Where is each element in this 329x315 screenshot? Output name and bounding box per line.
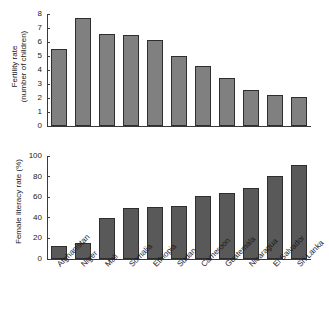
y-tick-label-fertility-1: 1 xyxy=(24,108,42,116)
bar-fertility-guatemala xyxy=(219,78,235,126)
y-tick-label-literacy-0: 0 xyxy=(20,255,42,263)
chart-panel-fertility: Fertility rate (number of children) 0123… xyxy=(0,0,329,142)
y-tick-fertility-1 xyxy=(47,112,50,113)
x-axis-line-fertility xyxy=(47,126,311,127)
y-tick-fertility-5 xyxy=(47,56,50,57)
y-tick-label-literacy-40: 40 xyxy=(20,214,42,222)
y-tick-fertility-7 xyxy=(47,28,50,29)
bar-fertility-afghanistan xyxy=(51,49,67,126)
chart-panel-literacy: Female literacy rate (%) 020406080100 Af… xyxy=(0,142,329,315)
y-tick-fertility-2 xyxy=(47,98,50,99)
y-tick-label-literacy-80: 80 xyxy=(20,173,42,181)
bar-fertility-mali xyxy=(99,34,115,126)
bar-fertility-nicaragua xyxy=(243,90,259,126)
bar-fertility-sudan xyxy=(171,56,187,126)
y-tick-label-fertility-8: 8 xyxy=(24,10,42,18)
y-tick-literacy-40 xyxy=(47,217,50,218)
y-tick-label-fertility-3: 3 xyxy=(24,80,42,88)
y-tick-label-fertility-2: 2 xyxy=(24,94,42,102)
bar-fertility-el-salvador xyxy=(267,95,283,127)
y-tick-fertility-8 xyxy=(47,14,50,15)
y-tick-label-literacy-20: 20 xyxy=(20,234,42,242)
y-tick-label-literacy-60: 60 xyxy=(20,193,42,201)
y-tick-literacy-0 xyxy=(47,259,50,260)
y-axis-title-fertility-line1: Fertility rate xyxy=(10,25,19,109)
bar-fertility-niger xyxy=(75,18,91,127)
y-tick-literacy-100 xyxy=(47,156,50,157)
y-tick-label-fertility-5: 5 xyxy=(24,52,42,60)
y-tick-label-fertility-7: 7 xyxy=(24,24,42,32)
bar-fertility-somalia xyxy=(123,35,139,126)
figure-container: Fertility rate (number of children) 0123… xyxy=(0,0,329,315)
y-tick-fertility-4 xyxy=(47,70,50,71)
y-tick-label-fertility-4: 4 xyxy=(24,66,42,74)
y-tick-fertility-3 xyxy=(47,84,50,85)
y-tick-label-fertility-6: 6 xyxy=(24,38,42,46)
y-axis-line-literacy xyxy=(47,156,48,259)
bar-fertility-sri-lanka xyxy=(291,97,307,126)
y-tick-literacy-20 xyxy=(47,238,50,239)
bar-fertility-cameroon xyxy=(195,66,211,126)
y-tick-label-fertility-0: 0 xyxy=(24,122,42,130)
bar-literacy-cameroon xyxy=(195,196,211,259)
y-tick-literacy-80 xyxy=(47,176,50,177)
y-tick-fertility-0 xyxy=(47,126,50,127)
y-tick-label-literacy-100: 100 xyxy=(20,152,42,160)
y-tick-fertility-6 xyxy=(47,42,50,43)
plot-area-fertility xyxy=(47,14,311,126)
bar-fertility-ethiopia xyxy=(147,40,163,126)
y-tick-literacy-60 xyxy=(47,197,50,198)
